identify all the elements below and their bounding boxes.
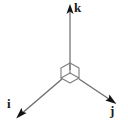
axes-diagram-svg bbox=[0, 0, 128, 132]
coordinate-axes-figure: k i j bbox=[0, 0, 128, 132]
cube-edge-center-right bbox=[70, 73, 79, 78]
axis-line-i bbox=[20, 79, 62, 115]
cube-edge-center-left bbox=[61, 73, 70, 78]
axis-label-k: k bbox=[74, 1, 81, 14]
axis-line-j bbox=[79, 79, 112, 101]
arrowhead-i bbox=[16, 108, 26, 119]
unit-cube-icon bbox=[61, 63, 79, 83]
axis-label-j: j bbox=[110, 104, 114, 117]
axis-label-i: i bbox=[7, 97, 11, 110]
